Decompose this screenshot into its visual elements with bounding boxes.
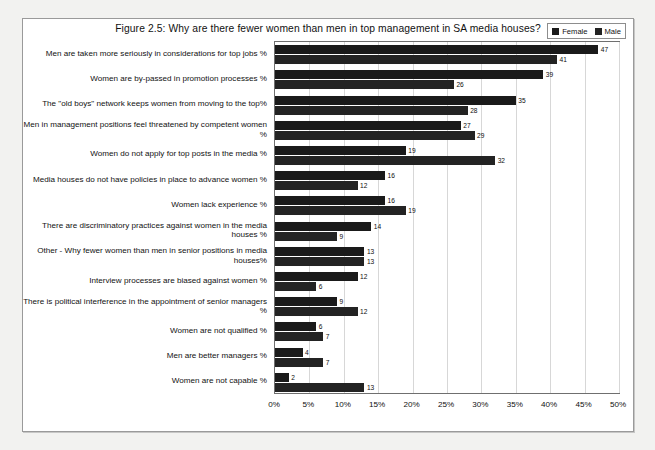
category-label: Women are by-passed in promotion process… [23,74,267,83]
bar-value-label: 29 [475,131,485,140]
legend-swatch-icon [595,28,602,35]
bar-value-label: 41 [557,55,567,64]
bar-male [275,106,468,115]
bar-male [275,282,316,291]
x-tick-label: 35% [507,400,523,409]
category-label: Men are better managers % [23,352,267,361]
bar-male [275,358,323,367]
bar-male [275,181,358,190]
bar-group: 126 [275,272,619,291]
bar-value-label: 9 [337,232,343,241]
bar-value-label: 28 [468,106,478,115]
bar-group: 149 [275,222,619,241]
bar-group: 213 [275,373,619,392]
bar-group: 1612 [275,171,619,190]
bar-value-label: 13 [364,383,374,392]
plot-area: 4741392635282729193216121619149131312691… [274,41,620,394]
bar-female [275,196,385,205]
bar-value-label: 19 [406,206,416,215]
bar-male [275,80,454,89]
figure-frame: Figure 2.5: Why are there fewer women th… [22,18,634,432]
bar-female [275,222,371,231]
x-tick-label: 25% [438,400,454,409]
bar-value-label: 39 [543,70,553,79]
bar-value-label: 12 [358,307,368,316]
x-tick-label: 40% [541,400,557,409]
bar-value-label: 26 [454,80,464,89]
category-label: Women do not apply for top posts in the … [23,150,267,159]
legend-label: Male [605,27,621,36]
x-tick-label: 30% [472,400,488,409]
bar-female [275,171,385,180]
category-label: Men are taken more seriously in consider… [23,49,267,58]
x-axis: 0%5%10%15%20%25%30%35%40%45%50% [274,395,620,415]
category-label: Other - Why fewer women than men in seni… [23,246,267,265]
bar-female [275,121,461,130]
page-title: Figure 2.5: Why are there fewer women th… [23,23,633,34]
bar-value-label: 47 [598,45,608,54]
bar-male [275,156,495,165]
category-label: Interview processes are biased against w… [23,276,267,285]
bar-female [275,247,364,256]
bar-male [275,307,358,316]
category-label: There is political interference in the a… [23,296,267,315]
bar-group: 1313 [275,247,619,266]
legend-swatch-icon [552,28,559,35]
category-label: There are discriminatory practices again… [23,221,267,240]
bar-value-label: 16 [385,171,395,180]
legend-entry-female: Female [552,27,587,36]
x-tick-label: 10% [335,400,351,409]
bar-value-label: 4 [303,348,309,357]
category-label: Media houses do not have policies in pla… [23,175,267,184]
bar-value-label: 16 [385,196,395,205]
bar-value-label: 6 [316,322,322,331]
bar-value-label: 32 [495,156,505,165]
bar-male [275,383,364,392]
bar-group: 47 [275,348,619,367]
chart-legend: FemaleMale [547,23,626,39]
legend-label: Female [562,27,587,36]
bar-value-label: 12 [358,181,368,190]
bar-male [275,55,557,64]
bar-male [275,131,475,140]
bar-group: 3528 [275,96,619,115]
bar-value-label: 27 [461,121,471,130]
x-tick-label: 20% [403,400,419,409]
bar-value-label: 35 [516,96,526,105]
bar-female [275,297,337,306]
bar-female [275,146,406,155]
bar-value-label: 7 [323,332,329,341]
bar-group: 67 [275,322,619,341]
screenshot-page: Figure 2.5: Why are there fewer women th… [0,0,655,450]
category-axis: Men are taken more seriously in consider… [25,41,271,394]
bar-value-label: 12 [358,272,368,281]
x-tick-label: 50% [610,400,626,409]
bar-value-label: 13 [364,247,374,256]
bar-male [275,257,364,266]
bar-value-label: 2 [289,373,295,382]
bar-value-label: 14 [371,222,381,231]
category-label: The "old boys" network keeps women from … [23,99,267,108]
title-bar: Figure 2.5: Why are there fewer women th… [23,19,633,41]
category-label: Women are not capable % [23,377,267,386]
bar-male [275,332,323,341]
bar-group: 1619 [275,196,619,215]
bar-female [275,96,516,105]
bar-female [275,322,316,331]
bar-value-label: 9 [337,297,343,306]
bar-group: 2729 [275,121,619,140]
bar-female [275,45,598,54]
bar-value-label: 7 [323,358,329,367]
x-tick-label: 15% [369,400,385,409]
bar-group: 1932 [275,146,619,165]
gridline [619,42,620,393]
bar-value-label: 6 [316,282,322,291]
bar-group: 3926 [275,70,619,89]
bar-value-label: 13 [364,257,374,266]
category-label: Women lack experience % [23,200,267,209]
bar-group: 4741 [275,45,619,64]
plot-wrapper: Men are taken more seriously in consider… [23,41,633,431]
bar-female [275,272,358,281]
bar-group: 912 [275,297,619,316]
bar-value-label: 19 [406,146,416,155]
